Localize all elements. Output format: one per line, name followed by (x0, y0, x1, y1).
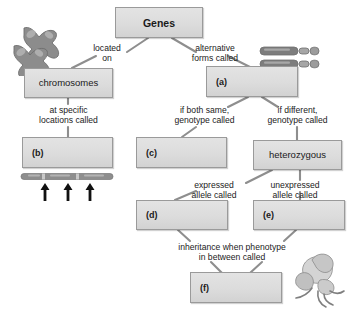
box-a-label: (a) (216, 77, 227, 86)
box-b-label: (b) (32, 148, 44, 157)
box-d[interactable]: (d) (136, 200, 228, 230)
connector-label-located-on: located on (82, 43, 132, 63)
box-f-label: (f) (200, 283, 209, 292)
connector-label-unexpressed-allele: unexpressed allele called (256, 180, 334, 200)
box-c-label: (c) (146, 148, 157, 157)
box-b[interactable]: (b) (22, 137, 113, 168)
box-e-label: (e) (263, 211, 274, 220)
chromosome-bar-arrows-icon (18, 170, 118, 202)
box-chromosomes[interactable]: chromosomes (24, 68, 113, 98)
box-chromosomes-label: chromosomes (25, 78, 112, 88)
connector-label-if-both-same: if both same, genotype called (162, 105, 247, 125)
connector-label-at-specific-locations: at specific locations called (26, 105, 111, 125)
box-c[interactable]: (c) (136, 137, 227, 168)
box-heterozygous-label: heterozygous (254, 150, 341, 160)
connector-label-if-different: if different, genotype called (255, 105, 340, 125)
box-a[interactable]: (a) (206, 66, 298, 97)
connector-label-expressed-allele: expressed allele called (180, 180, 248, 200)
box-genes-label: Genes (116, 17, 202, 28)
box-e[interactable]: (e) (253, 200, 345, 230)
box-heterozygous[interactable]: heterozygous (253, 140, 342, 170)
box-d-label: (d) (146, 211, 158, 220)
box-f[interactable]: (f) (190, 272, 282, 303)
concept-map-diagram: Genes chromosomes (a) (b) (c) heterozygo… (0, 0, 350, 313)
connector-label-inheritance-phenotype: inheritance when phenotype in between ca… (153, 242, 311, 262)
box-genes[interactable]: Genes (115, 7, 203, 38)
connector-label-alternative-forms: alternative forms called (180, 43, 250, 63)
